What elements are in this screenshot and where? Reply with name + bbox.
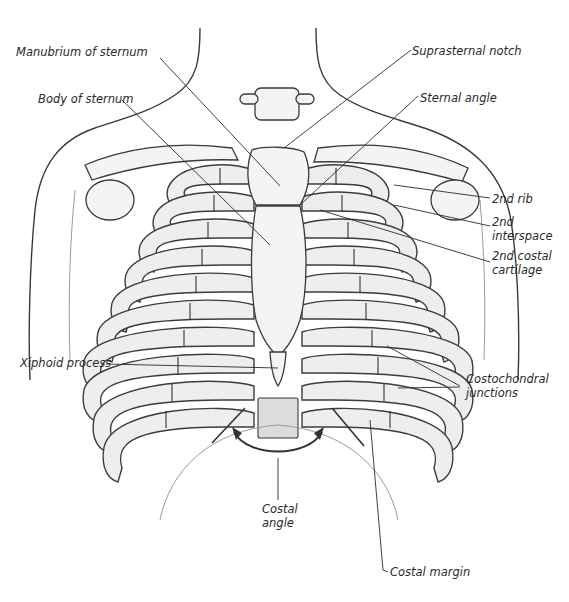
label-costochondral-2: junctions [464, 386, 518, 400]
vertebra-process-left [240, 94, 258, 104]
costal-angle-arrowhead-right [314, 427, 324, 440]
sternum-body [252, 206, 307, 356]
xiphoid-process [270, 352, 286, 386]
vertebra-process-right [296, 94, 314, 104]
label-xiphoid: Xiphoid process [19, 356, 111, 370]
label-suprasternal-notch: Suprasternal notch [412, 44, 522, 58]
label-2nd-interspace-2: interspace [492, 229, 553, 243]
label-2nd-interspace-1: 2nd [492, 215, 515, 229]
right-shoulder-joint [431, 180, 479, 220]
label-2nd-rib: 2nd rib [492, 192, 533, 206]
abdominal-vertebra [258, 398, 298, 438]
label-manubrium: Manubrium of sternum [16, 45, 148, 59]
left-rib-10 [103, 408, 254, 482]
label-2nd-costal-cartilage-2: cartilage [492, 263, 542, 277]
leader-costal-margin [370, 420, 388, 572]
vertebra [240, 88, 314, 120]
label-sternal-angle: Sternal angle [420, 91, 497, 105]
label-costal-margin: Costal margin [390, 565, 470, 579]
label-costochondral-1: Costochondral [466, 372, 550, 386]
label-costal-angle-2: angle [262, 516, 294, 530]
label-body-of-sternum: Body of sternum [38, 92, 134, 106]
sternum [248, 147, 309, 438]
left-shoulder-joint [86, 180, 134, 220]
label-costal-angle-1: Costal [262, 502, 299, 516]
left-arm-inner [69, 190, 75, 360]
right-rib-10 [302, 408, 453, 482]
label-2nd-costal-cartilage-1: 2nd costal [492, 249, 552, 263]
costal-angle-arrowhead-left [232, 427, 242, 440]
manubrium [248, 147, 309, 205]
vertebra-body [255, 88, 299, 120]
rib-cage-diagram: Manubrium of sternum Body of sternum Sup… [0, 0, 569, 602]
